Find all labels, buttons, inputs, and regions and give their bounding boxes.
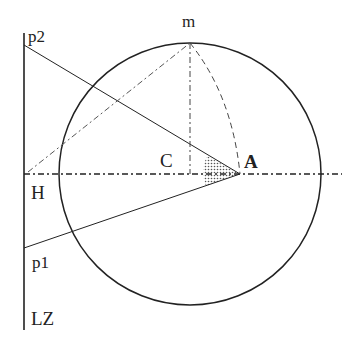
label-lz: LZ [31, 308, 54, 329]
line-p1-a [24, 174, 240, 248]
label-m: m [182, 12, 195, 31]
label-p1: p1 [32, 253, 49, 272]
label-a: A [244, 151, 258, 172]
label-h: H [31, 182, 45, 203]
label-p2: p2 [28, 27, 45, 46]
label-c: C [160, 150, 173, 171]
diagram-canvas: p2 m C A H p1 LZ [0, 0, 350, 351]
arc-m-a [190, 43, 240, 174]
line-p2-a [24, 45, 240, 174]
